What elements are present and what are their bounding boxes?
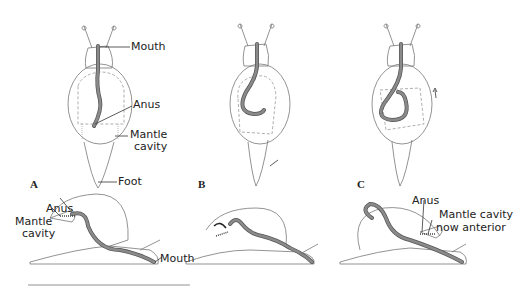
label-as-mantle-line2: cavity	[22, 228, 55, 240]
label-a-mantle-line2: cavity	[134, 141, 167, 153]
label-a-mouth: Mouth	[131, 41, 165, 53]
label-as-anus: Anus	[46, 203, 73, 215]
label-a-foot: Foot	[118, 176, 142, 188]
label-as-mouth: Mouth	[160, 253, 194, 265]
label-cs-mantle-line2: now anterior	[436, 222, 506, 234]
snail-b-top-view	[230, 24, 290, 186]
label-a-anus: Anus	[133, 99, 160, 111]
label-cs-anus: Anus	[412, 195, 439, 207]
panel-label-b: B	[198, 178, 205, 190]
torsion-diagram	[0, 0, 518, 290]
label-cs-mantle-line1: Mantle cavity	[439, 209, 513, 221]
panel-label-a: A	[30, 178, 38, 190]
snail-c-top-view	[372, 24, 437, 186]
snail-a-top-view	[68, 26, 132, 188]
snail-b-side-view	[186, 208, 318, 264]
panel-label-c: C	[357, 178, 365, 190]
